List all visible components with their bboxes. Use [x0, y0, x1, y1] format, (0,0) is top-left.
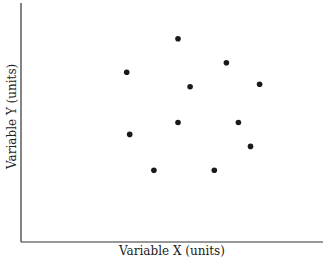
data-point: [224, 60, 230, 66]
data-point: [236, 120, 242, 126]
data-point: [127, 132, 133, 138]
data-points: [124, 36, 263, 173]
data-point: [151, 168, 157, 174]
data-point: [248, 144, 254, 150]
data-point: [175, 120, 181, 126]
x-axis-label: Variable X (units): [21, 244, 323, 258]
data-point: [257, 82, 263, 88]
data-point: [124, 70, 130, 76]
data-point: [212, 168, 218, 174]
data-point: [175, 36, 181, 42]
y-axis-label: Variable Y (units): [5, 69, 19, 169]
data-point: [187, 84, 193, 90]
